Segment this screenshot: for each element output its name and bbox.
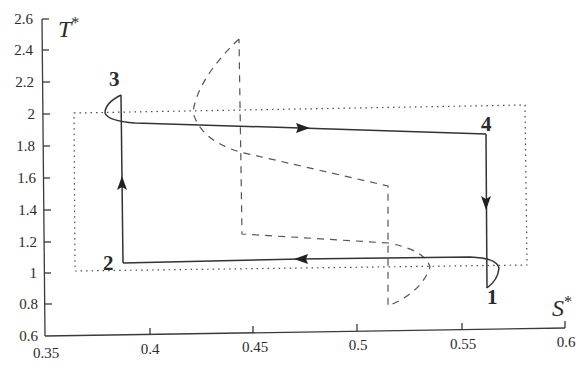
point-label-3: 3 xyxy=(109,67,120,91)
segment-3-to-4 xyxy=(105,95,486,134)
x-tick-label: 0.35 xyxy=(33,345,59,361)
direction-arrows xyxy=(117,123,491,264)
point-label-4: 4 xyxy=(481,112,492,136)
y-tick-label: 0.6 xyxy=(19,328,38,344)
x-tick-label: 0.5 xyxy=(349,337,368,353)
y-tick-label: 2.6 xyxy=(14,11,33,27)
x-tick-label: 0.45 xyxy=(242,339,268,355)
y-tick-label: 2 xyxy=(28,106,36,122)
y-tick-label: 1.4 xyxy=(18,202,37,218)
dashed-curve xyxy=(193,39,430,306)
x-tick-label: 0.4 xyxy=(141,341,160,357)
chart-area: 2.6 2.4 2.2 2 1.8 1.6 1.4 1.2 1 0.8 0.6 … xyxy=(0,0,588,370)
segment-4-to-1 xyxy=(486,134,487,288)
point-label-2: 2 xyxy=(103,251,114,275)
x-axis-line xyxy=(45,328,565,336)
y-tick-label: 2.2 xyxy=(15,74,34,90)
arrow-left-icon xyxy=(294,254,308,264)
x-axis-label: S* xyxy=(552,293,572,321)
y-tick-label: 1.8 xyxy=(16,138,35,154)
y-tick-label: 1 xyxy=(30,265,38,281)
y-tick-labels: 2.6 2.4 2.2 2 1.8 1.6 1.4 1.2 1 0.8 0.6 xyxy=(14,11,38,344)
x-tick-label: 0.6 xyxy=(557,334,576,350)
segment-1-to-2 xyxy=(123,257,499,288)
y-tick-label: 0.8 xyxy=(19,296,38,312)
point-label-1: 1 xyxy=(487,285,498,309)
x-tick-label: 0.55 xyxy=(450,336,476,352)
y-tick-label: 1.6 xyxy=(17,170,36,186)
plot-svg: 2.6 2.4 2.2 2 1.8 1.6 1.4 1.2 1 0.8 0.6 … xyxy=(0,0,588,370)
y-tick-label: 2.4 xyxy=(14,42,33,58)
y-axis-label: T* xyxy=(58,14,79,42)
y-tick-label: 1.2 xyxy=(18,234,37,250)
x-tick-labels: 0.35 0.4 0.45 0.5 0.55 0.6 xyxy=(33,334,576,361)
arrow-right-icon xyxy=(296,123,310,133)
